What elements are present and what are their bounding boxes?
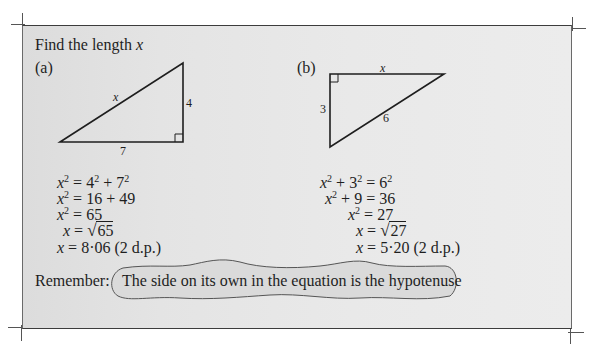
triangle-b-side-label: 3: [320, 102, 326, 117]
remember-label: Remember:: [35, 272, 110, 290]
rhs: = 8·06 (2 d.p.): [68, 239, 161, 256]
exponent: 2: [64, 173, 69, 184]
rhs: = 36: [362, 190, 395, 207]
working-a-line-5: x = 8·06 (2 d.p.): [57, 240, 161, 256]
rhs: =: [74, 222, 87, 239]
working-b-line-4: x = √27: [356, 223, 406, 239]
exponent: 2: [64, 189, 69, 200]
exponent: 2: [64, 205, 69, 216]
triangle-a: [60, 63, 183, 142]
working-b-line-1: x2 + 32 = 62: [320, 175, 392, 191]
rhs: =: [363, 222, 380, 239]
radicand: 65: [96, 221, 113, 239]
triangle-b-top-label: x: [380, 61, 385, 76]
working-a-line-4: x = √65: [63, 223, 113, 239]
var: x: [63, 222, 70, 239]
radicand: 27: [389, 221, 406, 239]
var: x: [57, 239, 64, 256]
triangle-a-side-label: 4: [186, 96, 192, 111]
rhs: = 4: [73, 174, 94, 191]
rhs: = 5·20 (2 d.p.): [363, 239, 460, 256]
triangle-a-hypotenuse-label: x: [113, 90, 118, 105]
rhs: = 6: [362, 174, 387, 191]
exponent: 2: [124, 173, 129, 184]
exponent: 2: [387, 173, 392, 184]
rhs-mid: + 7: [99, 174, 124, 191]
rhs: = 16 + 49: [73, 190, 135, 207]
triangle-b-hypotenuse-label: 6: [383, 111, 389, 126]
remember-note: The side on its own in the equation is t…: [122, 272, 462, 290]
triangle-a-base-label: 7: [120, 144, 126, 159]
working-b-line-5: x = 5·20 (2 d.p.): [356, 240, 460, 256]
